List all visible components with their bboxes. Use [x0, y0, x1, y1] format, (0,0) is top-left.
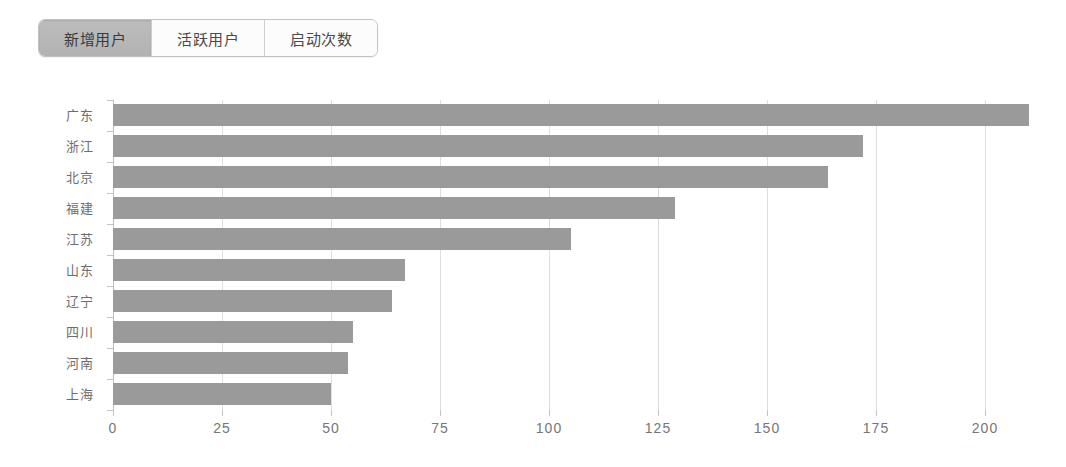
x-tick-150 [767, 410, 768, 416]
bar-辽宁[interactable] [113, 290, 392, 312]
category-label-北京: 北京 [66, 162, 94, 193]
bar-江苏[interactable] [113, 228, 571, 250]
gridline-200 [985, 100, 986, 410]
category-tick [107, 162, 113, 163]
bar-北京[interactable] [113, 166, 828, 188]
x-tick-175 [876, 410, 877, 416]
tab-launch-count[interactable]: 启动次数 [265, 20, 377, 56]
category-tick [107, 286, 113, 287]
category-label-山东: 山东 [66, 255, 94, 286]
bar-row [113, 131, 985, 162]
x-tick-label-175: 175 [863, 420, 889, 436]
category-label-河南: 河南 [66, 348, 94, 379]
bar-广东[interactable] [113, 104, 1029, 126]
x-tick-0 [113, 410, 114, 416]
category-label-上海: 上海 [66, 379, 94, 410]
bar-row [113, 255, 985, 286]
category-label-浙江: 浙江 [66, 131, 94, 162]
x-tick-label-125: 125 [645, 420, 671, 436]
plot-area [113, 100, 985, 410]
tab-active-users-label: 活跃用户 [177, 28, 239, 49]
x-tick-label-0: 0 [109, 420, 118, 436]
tab-new-users-label: 新增用户 [64, 28, 126, 49]
bar-上海[interactable] [113, 383, 331, 405]
x-tick-50 [331, 410, 332, 416]
category-label-广东: 广东 [66, 100, 94, 131]
category-tick [107, 379, 113, 380]
category-tick [107, 255, 113, 256]
bar-row [113, 162, 985, 193]
bar-row [113, 379, 985, 410]
bar-河南[interactable] [113, 352, 348, 374]
category-tick [107, 348, 113, 349]
metric-tab-bar[interactable]: 新增用户 活跃用户 启动次数 [38, 19, 378, 57]
category-tick [107, 224, 113, 225]
category-label-江苏: 江苏 [66, 224, 94, 255]
x-tick-label-25: 25 [213, 420, 231, 436]
x-tick-125 [658, 410, 659, 416]
category-axis-labels: 广东浙江北京福建江苏山东辽宁四川河南上海 [0, 100, 104, 410]
tab-new-users[interactable]: 新增用户 [39, 20, 152, 56]
x-tick-label-50: 50 [322, 420, 340, 436]
bar-四川[interactable] [113, 321, 353, 343]
category-tick [107, 131, 113, 132]
bar-row [113, 286, 985, 317]
category-label-四川: 四川 [66, 317, 94, 348]
x-tick-label-200: 200 [972, 420, 998, 436]
tab-active-users[interactable]: 活跃用户 [152, 20, 265, 56]
category-tick [107, 100, 113, 101]
bar-row [113, 317, 985, 348]
bar-row [113, 100, 985, 131]
bar-row [113, 224, 985, 255]
category-label-福建: 福建 [66, 193, 94, 224]
tab-launch-count-label: 启动次数 [290, 28, 352, 49]
category-tick [107, 193, 113, 194]
x-tick-100 [549, 410, 550, 416]
bar-row [113, 348, 985, 379]
x-tick-label-150: 150 [754, 420, 780, 436]
x-tick-200 [985, 410, 986, 416]
bar-福建[interactable] [113, 197, 675, 219]
x-tick-75 [440, 410, 441, 416]
x-tick-label-100: 100 [536, 420, 562, 436]
bar-浙江[interactable] [113, 135, 863, 157]
x-tick-label-75: 75 [431, 420, 449, 436]
category-tick [107, 317, 113, 318]
province-bar-chart: 广东浙江北京福建江苏山东辽宁四川河南上海 0255075100125150175… [0, 86, 1066, 446]
bar-row [113, 193, 985, 224]
x-tick-25 [222, 410, 223, 416]
bar-山东[interactable] [113, 259, 405, 281]
category-label-辽宁: 辽宁 [66, 286, 94, 317]
